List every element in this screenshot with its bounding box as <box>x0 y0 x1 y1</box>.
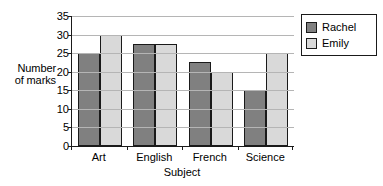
gridline <box>72 72 294 73</box>
legend-swatch-icon <box>306 22 317 33</box>
y-axis-tickmark <box>68 72 72 73</box>
bar <box>189 62 211 146</box>
legend-label: Emily <box>322 37 349 49</box>
gridline <box>72 90 294 91</box>
x-axis-tick-label: Art <box>92 150 106 164</box>
plot-area <box>71 16 294 147</box>
gridline <box>72 16 294 17</box>
y-axis-tickmark <box>68 53 72 54</box>
gridline <box>72 53 294 54</box>
y-axis-tickmark <box>68 127 72 128</box>
y-axis-tick-labels: 05101520253035 <box>48 10 69 150</box>
x-axis-tick-labels: ArtEnglishFrenchScience <box>63 150 303 166</box>
legend-swatch-icon <box>306 38 317 49</box>
legend-item[interactable]: Rachel <box>306 19 371 35</box>
y-axis-tick-label: 15 <box>48 85 69 96</box>
gridline <box>72 35 294 36</box>
y-axis-tickmark <box>68 16 72 17</box>
y-axis-tick-label: 10 <box>48 103 69 114</box>
legend-label: Rachel <box>322 21 356 33</box>
chart-legend: RachelEmily <box>301 14 377 56</box>
legend-item[interactable]: Emily <box>306 35 371 51</box>
y-axis-tickmark <box>68 35 72 36</box>
bar <box>133 44 155 146</box>
y-axis-tickmark <box>68 109 72 110</box>
y-axis-tick-label: 35 <box>48 11 69 22</box>
y-axis-tick-label: 5 <box>48 122 69 133</box>
y-axis-tick-label: 25 <box>48 48 69 59</box>
bar <box>266 53 288 146</box>
y-axis-tickmark <box>68 90 72 91</box>
y-axis-tick-label: 30 <box>48 29 69 40</box>
bar <box>155 44 177 146</box>
y-axis-tick-label: 20 <box>48 66 69 77</box>
gridline <box>72 127 294 128</box>
x-axis-tick-label: French <box>193 150 227 164</box>
gridline <box>72 109 294 110</box>
x-axis-tick-label: Science <box>246 150 285 164</box>
x-axis-tick-label: English <box>136 150 172 164</box>
x-axis-title: Subject <box>71 166 293 179</box>
bar <box>244 90 266 146</box>
bar <box>78 53 100 146</box>
bar-chart: Number of marks 05101520253035 ArtEnglis… <box>0 0 383 186</box>
